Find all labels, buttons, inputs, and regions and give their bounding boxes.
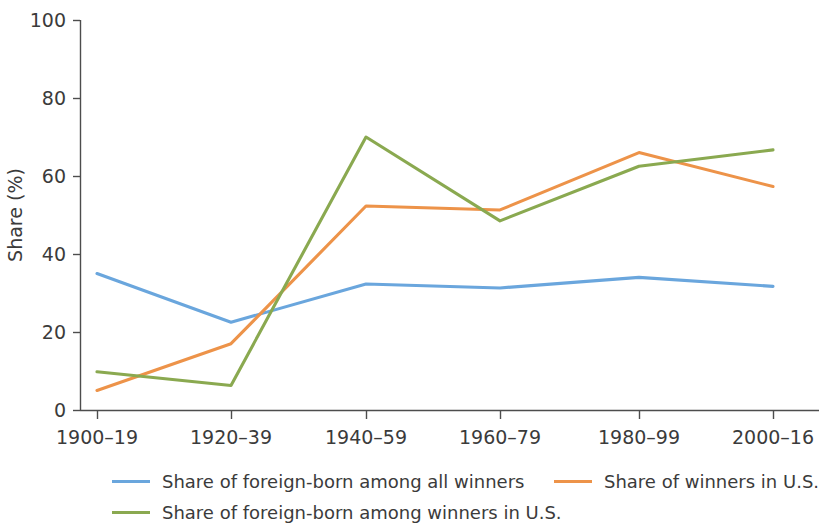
x-tick-label-2: 1940–59 xyxy=(325,426,407,448)
y-tick-label-60: 60 xyxy=(42,165,66,187)
y-tick-label-20: 20 xyxy=(42,321,66,343)
x-tick-label-3: 1960–79 xyxy=(459,426,541,448)
legend-label-0: Share of foreign-born among all winners xyxy=(162,471,524,492)
y-tick-label-40: 40 xyxy=(42,243,66,265)
y-axis-title: Share (%) xyxy=(4,168,26,262)
y-tick-label-100: 100 xyxy=(30,9,66,31)
x-tick-label-0: 1900–19 xyxy=(56,426,138,448)
legend-label-2: Share of foreign-born among winners in U… xyxy=(162,502,562,523)
x-tick-label-1: 1920–39 xyxy=(190,426,272,448)
chart-background xyxy=(0,0,819,529)
y-tick-label-0: 0 xyxy=(54,399,66,421)
x-tick-label-4: 1980–99 xyxy=(598,426,680,448)
y-tick-label-80: 80 xyxy=(42,87,66,109)
line-chart-figure: 0 20 40 60 80 100 Share (%) 1900–19 1920… xyxy=(0,0,819,529)
chart-canvas: 0 20 40 60 80 100 Share (%) 1900–19 1920… xyxy=(0,0,819,529)
x-tick-label-5: 2000–16 xyxy=(732,426,814,448)
legend-label-1: Share of winners in U.S. xyxy=(604,471,819,492)
